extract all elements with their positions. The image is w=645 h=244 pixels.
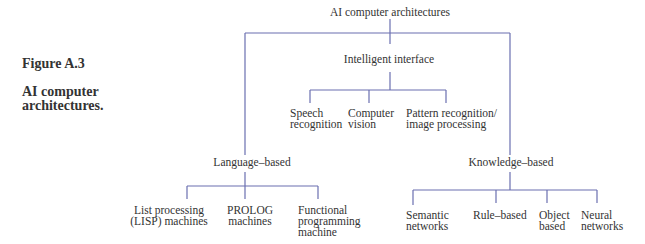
label-line: image processing: [406, 119, 497, 130]
label-line: based: [539, 221, 570, 232]
node-knowledge-based: Knowledge–based: [469, 157, 554, 168]
node-functional-programming: Functional programming machine: [298, 205, 361, 238]
label-line: Rule–based: [473, 210, 527, 221]
node-speech-recognition: Speech recognition: [290, 108, 342, 130]
node-rule-based: Rule–based: [473, 210, 527, 221]
node-computer-vision: Computer vision: [348, 108, 394, 130]
node-neural-networks: Neural networks: [581, 210, 623, 232]
label-line: machines: [227, 216, 273, 227]
label-line: networks: [406, 221, 449, 232]
node-language-based: Language–based: [213, 157, 290, 168]
label-line: (LISP) machines: [130, 216, 208, 227]
node-semantic-networks: Semantic networks: [406, 210, 449, 232]
label-line: networks: [581, 221, 623, 232]
node-pattern-recognition: Pattern recognition/ image processing: [406, 108, 497, 130]
node-object-based: Object based: [539, 210, 570, 232]
label-line: machine: [298, 227, 361, 238]
label-line: vision: [348, 119, 394, 130]
node-lisp-machines: List processing (LISP) machines: [130, 205, 208, 227]
node-intelligent-interface: Intelligent interface: [344, 54, 434, 65]
node-prolog-machines: PROLOG machines: [227, 205, 273, 227]
node-root: AI computer architectures: [330, 7, 450, 18]
label-line: recognition: [290, 119, 342, 130]
